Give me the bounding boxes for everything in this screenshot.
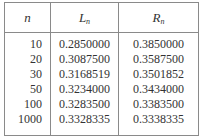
cell-n: 30 — [5, 67, 51, 82]
table-row: 50 0.3234000 0.3434000 — [5, 82, 199, 97]
header-n-label: n — [24, 10, 31, 25]
cell-ln: 0.3234000 — [51, 82, 119, 97]
cell-ln: 0.3087500 — [51, 52, 119, 67]
header-rn-subscript: n — [160, 17, 164, 26]
header-ln-subscript: n — [86, 17, 90, 26]
cell-rn: 0.3338335 — [119, 112, 199, 136]
cell-rn: 0.3434000 — [119, 82, 199, 97]
header-n: n — [5, 3, 51, 33]
cell-n: 20 — [5, 52, 51, 67]
table-row: 30 0.3168519 0.3501852 — [5, 67, 199, 82]
cell-n: 10 — [5, 33, 51, 53]
cell-n: 100 — [5, 97, 51, 112]
table-container: n Ln Rn 10 0.2850000 0.3850000 20 0.3087… — [4, 2, 199, 136]
riemann-sum-table: n Ln Rn 10 0.2850000 0.3850000 20 0.3087… — [4, 2, 199, 136]
cell-ln: 0.3168519 — [51, 67, 119, 82]
cell-n: 50 — [5, 82, 51, 97]
table-row: 100 0.3283500 0.3383500 — [5, 97, 199, 112]
header-ln: Ln — [51, 3, 119, 33]
table-row: 1000 0.3328335 0.3338335 — [5, 112, 199, 136]
cell-rn: 0.3850000 — [119, 33, 199, 53]
cell-n: 1000 — [5, 112, 51, 136]
cell-rn: 0.3587500 — [119, 52, 199, 67]
cell-rn: 0.3383500 — [119, 97, 199, 112]
header-row: n Ln Rn — [5, 3, 199, 33]
cell-ln: 0.3328335 — [51, 112, 119, 136]
table-row: 20 0.3087500 0.3587500 — [5, 52, 199, 67]
cell-ln: 0.3283500 — [51, 97, 119, 112]
cell-ln: 0.2850000 — [51, 33, 119, 53]
cell-rn: 0.3501852 — [119, 67, 199, 82]
table-row: 10 0.2850000 0.3850000 — [5, 33, 199, 53]
header-rn: Rn — [119, 3, 199, 33]
